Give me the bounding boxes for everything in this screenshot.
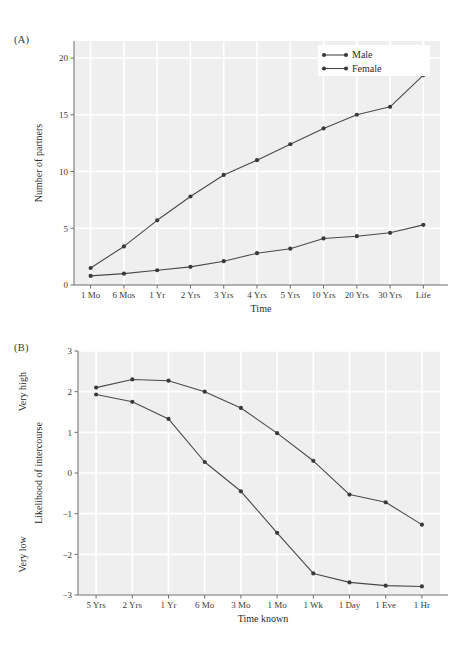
data-point: [311, 571, 315, 575]
data-point: [384, 584, 388, 588]
legend-marker: [344, 53, 348, 57]
chart-a: 051015201 Mo6 Mos1 Yr2 Yrs3 Yrs4 Yrs5 Yr…: [0, 0, 468, 325]
data-point: [203, 390, 207, 394]
data-point: [347, 580, 351, 584]
y-axis-tick-label: 0: [64, 280, 69, 290]
data-point: [388, 231, 392, 235]
chart-b-canvas: 3210−1−2−35 Yrs2 Yrs1 Yr6 Mo3 Mo1 Mo1 Wk…: [0, 325, 468, 650]
data-point: [239, 406, 243, 410]
data-point: [288, 142, 292, 146]
data-point: [355, 234, 359, 238]
data-point: [421, 223, 425, 227]
data-point: [420, 523, 424, 527]
y-axis-tick-label: 0: [68, 468, 73, 478]
y-axis-tick-label: 15: [59, 110, 69, 120]
data-point: [275, 431, 279, 435]
x-axis-tick-label: 30 Yrs: [378, 290, 402, 300]
x-axis-tick-label: 5 Yrs: [281, 290, 301, 300]
y-axis-tick-label: −3: [62, 590, 72, 600]
data-point: [255, 251, 259, 255]
y-axis-title: Number of partners: [33, 124, 44, 202]
y-axis-tick-label: 3: [68, 346, 73, 356]
data-point: [255, 158, 259, 162]
data-point: [203, 460, 207, 464]
x-axis-tick-label: 4 Yrs: [247, 290, 267, 300]
x-axis-tick-label: 1 Eve: [375, 600, 396, 610]
legend-marker: [322, 53, 326, 57]
x-axis-tick-label: 5 Yrs: [86, 600, 106, 610]
x-axis-tick-label: 1 Mo: [267, 600, 287, 610]
data-point: [188, 194, 192, 198]
data-point: [288, 247, 292, 251]
legend-label: Male: [352, 49, 373, 60]
data-point: [155, 218, 159, 222]
data-point: [122, 244, 126, 248]
y-axis-tick-label: 20: [59, 53, 69, 63]
chart-legend: MaleFemale: [318, 45, 430, 76]
data-point: [94, 386, 98, 390]
y-axis-annotation: Very low: [17, 535, 28, 572]
data-point: [155, 268, 159, 272]
data-point: [166, 379, 170, 383]
chart-b: 3210−1−2−35 Yrs2 Yrs1 Yr6 Mo3 Mo1 Mo1 Wk…: [0, 325, 468, 650]
data-point: [239, 489, 243, 493]
data-point: [311, 459, 315, 463]
figure-panel-b: (B) 3210−1−2−35 Yrs2 Yrs1 Yr6 Mo3 Mo1 Mo…: [0, 325, 468, 650]
x-axis-title: Time known: [238, 613, 288, 624]
legend-marker: [322, 66, 326, 70]
data-point: [122, 272, 126, 276]
y-axis-annotation: Very high: [17, 372, 28, 411]
data-point: [130, 400, 134, 404]
x-axis-tick-label: 3 Yrs: [214, 290, 234, 300]
data-point: [89, 266, 93, 270]
data-point: [384, 500, 388, 504]
x-axis-tick-label: 1 Mo: [81, 290, 101, 300]
x-axis-tick-label: 10 Yrs: [312, 290, 336, 300]
x-axis-tick-label: 20 Yrs: [345, 290, 369, 300]
x-axis-tick-label: 1 Yr: [149, 290, 165, 300]
chart-a-canvas: 051015201 Mo6 Mos1 Yr2 Yrs3 Yrs4 Yrs5 Yr…: [0, 0, 468, 325]
y-axis-tick-label: 5: [64, 224, 69, 234]
x-axis-tick-label: Life: [416, 290, 431, 300]
x-axis-tick-label: 1 Wk: [304, 600, 324, 610]
data-point: [166, 417, 170, 421]
data-point: [188, 265, 192, 269]
x-axis-tick-label: 6 Mo: [195, 600, 215, 610]
x-axis-tick-label: 1 Day: [339, 600, 361, 610]
x-axis-tick-label: 1 Yr: [161, 600, 177, 610]
data-point: [347, 492, 351, 496]
y-axis-tick-label: −1: [62, 509, 72, 519]
data-point: [94, 392, 98, 396]
y-axis-tick-label: −2: [62, 550, 72, 560]
data-point: [89, 274, 93, 278]
x-axis-tick-label: 3 Mo: [231, 600, 251, 610]
x-axis-tick-label: 6 Mos: [113, 290, 136, 300]
x-axis-title: Time: [251, 303, 272, 314]
data-point: [275, 531, 279, 535]
legend-marker: [344, 66, 348, 70]
data-point: [420, 584, 424, 588]
x-axis-tick-label: 1 Hr: [414, 600, 430, 610]
y-axis-tick-label: 1: [68, 428, 73, 438]
data-point: [355, 113, 359, 117]
legend-label: Female: [352, 63, 382, 74]
y-axis-tick-label: 2: [68, 387, 73, 397]
figure-panel-a: (A) 051015201 Mo6 Mos1 Yr2 Yrs3 Yrs4 Yrs…: [0, 0, 468, 325]
data-point: [222, 259, 226, 263]
data-point: [321, 236, 325, 240]
y-axis-tick-label: 10: [59, 167, 69, 177]
x-axis-tick-label: 2 Yrs: [123, 600, 143, 610]
data-point: [130, 377, 134, 381]
data-point: [321, 126, 325, 130]
x-axis-tick-label: 2 Yrs: [181, 290, 201, 300]
y-axis-title: Likelihood of intercourse: [33, 422, 44, 524]
data-point: [222, 173, 226, 177]
data-point: [388, 105, 392, 109]
